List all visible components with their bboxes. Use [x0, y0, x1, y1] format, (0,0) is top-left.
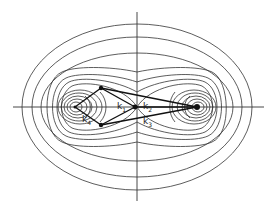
label-k3: k3 — [143, 116, 152, 128]
node-right-well — [194, 104, 200, 110]
label-k2: k2 — [143, 101, 152, 113]
node-upper — [99, 86, 103, 90]
node-left-well — [74, 106, 77, 109]
label-k1: k1 — [117, 101, 126, 113]
contour-diagram — [0, 0, 277, 211]
node-center — [133, 105, 138, 110]
label-k4: k4 — [82, 114, 91, 126]
node-lower — [99, 123, 103, 127]
